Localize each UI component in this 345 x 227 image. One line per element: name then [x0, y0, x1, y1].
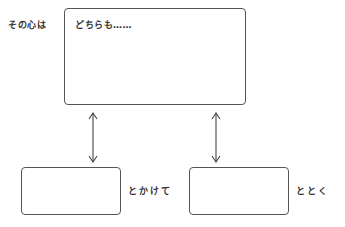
left-double-arrow: [89, 113, 97, 162]
bottom-left-side-label: とかけて: [128, 184, 172, 197]
bottom-right-side-label: ととく: [296, 184, 329, 197]
right-double-arrow: [212, 113, 220, 162]
bottom-left-box: [21, 167, 121, 215]
bottom-right-box: [189, 167, 289, 215]
